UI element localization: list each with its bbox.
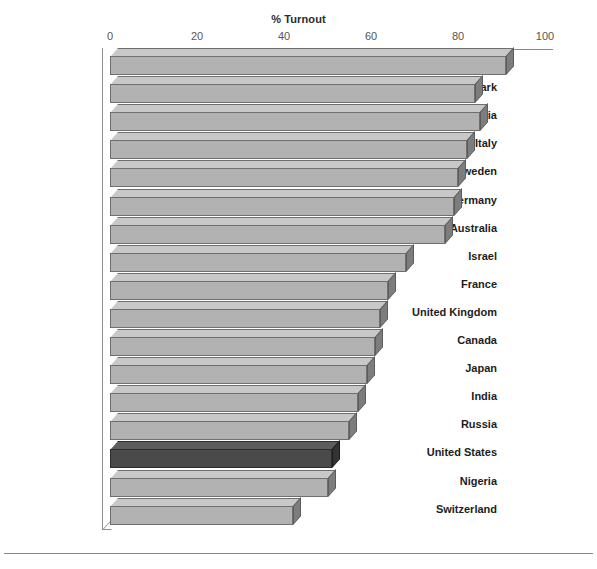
bar-front-face [110, 140, 467, 159]
bar-united-kingdom [110, 301, 388, 329]
chart-row: France [0, 273, 597, 301]
chart-row: United States [0, 441, 597, 469]
x-tick-20: 20 [191, 30, 203, 42]
bar-australia [110, 217, 453, 245]
chart-row: Japan [0, 357, 597, 385]
category-label-italy: Italy [475, 137, 497, 149]
chart-row: Italy [0, 132, 597, 160]
category-label-switzerland: Switzerland [436, 503, 497, 515]
chart-row: Denmark [0, 76, 597, 104]
x-tick-40: 40 [278, 30, 290, 42]
chart-row: Switzerland [0, 498, 597, 526]
bar-front-face [110, 84, 475, 103]
bar-front-face [110, 309, 380, 328]
chart-row: India [0, 385, 597, 413]
bar-nigeria [110, 470, 336, 498]
bar-front-face [110, 56, 506, 75]
chart-row: Canada [0, 329, 597, 357]
category-label-nigeria: Nigeria [460, 475, 497, 487]
bar-front-face [110, 421, 349, 440]
bar-front-face [110, 506, 293, 525]
category-label-japan: Japan [465, 362, 497, 374]
bar-france [110, 273, 396, 301]
bottom-divider [4, 553, 593, 554]
bar-switzerland [110, 498, 301, 526]
bar-front-face [110, 197, 454, 216]
turnout-bar-chart: % Turnout 020406080100 BelgiumDenmarkAus… [0, 0, 597, 569]
bar-front-face [110, 337, 375, 356]
bar-india [110, 385, 366, 413]
x-tick-0: 0 [107, 30, 113, 42]
chart-row: Austria [0, 104, 597, 132]
chart-row: Israel [0, 245, 597, 273]
bar-front-face [110, 478, 328, 497]
bar-germany [110, 189, 462, 217]
chart-row: Australia [0, 217, 597, 245]
category-label-canada: Canada [457, 334, 497, 346]
plot-area: BelgiumDenmarkAustriaItalySwedenGermanyA… [0, 48, 597, 530]
category-label-australia: Australia [450, 222, 497, 234]
chart-row: Germany [0, 189, 597, 217]
bar-israel [110, 245, 414, 273]
bar-front-face [110, 253, 406, 272]
bar-japan [110, 357, 375, 385]
bar-belgium [110, 48, 514, 76]
bar-sweden [110, 160, 466, 188]
category-label-israel: Israel [468, 250, 497, 262]
bar-front-face [110, 168, 458, 187]
x-tick-100: 100 [536, 30, 554, 42]
category-label-france: France [461, 278, 497, 290]
category-label-united-kingdom: United Kingdom [412, 306, 497, 318]
bar-front-face [110, 393, 358, 412]
chart-row: Sweden [0, 160, 597, 188]
x-tick-60: 60 [365, 30, 377, 42]
bar-front-face [110, 112, 480, 131]
bar-denmark [110, 76, 483, 104]
chart-row: United Kingdom [0, 301, 597, 329]
chart-row: Belgium [0, 48, 597, 76]
bar-italy [110, 132, 475, 160]
bar-front-face [110, 225, 445, 244]
bar-united-states [110, 441, 340, 469]
chart-row: Russia [0, 413, 597, 441]
bar-russia [110, 413, 357, 441]
category-label-russia: Russia [461, 418, 497, 430]
category-label-india: India [471, 390, 497, 402]
bar-front-face [110, 449, 332, 468]
category-label-united-states: United States [427, 446, 497, 458]
chart-row: Nigeria [0, 470, 597, 498]
bar-front-face [110, 281, 388, 300]
chart-title: % Turnout [0, 13, 597, 25]
bar-canada [110, 329, 383, 357]
bar-front-face [110, 365, 367, 384]
x-tick-80: 80 [452, 30, 464, 42]
bar-austria [110, 104, 488, 132]
